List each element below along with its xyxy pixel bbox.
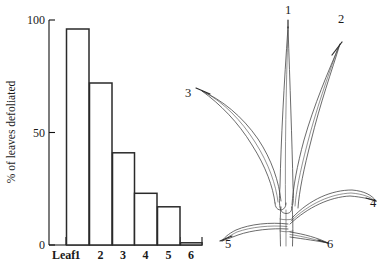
plant-label-leaf-1: 1 [285,3,291,17]
x-label-leaf-4: 4 [143,248,149,262]
plant-leaf-4-edge-lower [290,196,376,224]
x-label-leaf-3: 3 [120,248,126,262]
bar-leaf-4 [135,193,158,245]
y-tick-label-50: 50 [33,126,45,140]
plant-leaf-4-edge-upper [292,190,376,218]
plant-diagram: 1 2 3 4 5 6 [180,0,385,267]
bar-leaf-1 [67,29,90,245]
plant-label-leaf-6: 6 [327,237,333,251]
plant-stem-node-2 [280,231,293,232]
plant-leaf-3-edge-upper [202,91,281,201]
plant-label-leaf-3: 3 [185,86,191,100]
y-tick-label-100: 100 [27,13,45,27]
x-label-leaf-2: 2 [98,248,104,262]
y-axis-title: % of leaves defoliated [5,81,17,184]
plant-label-leaf-4: 4 [370,196,377,210]
plant-leaf-3-midrib [206,93,278,202]
figure-panel: 100 50 0 % of leaves defoliated Leaf 1 2… [0,0,385,267]
bar-leaf-2 [90,83,113,245]
plant-leaf-1-edge-left [279,27,288,207]
bar-leaf-3 [113,153,135,245]
plant-label-leaf-2: 2 [338,12,344,26]
plant-leaf-2-edge-upper [292,44,340,205]
leader-line-leaf-3 [196,88,210,94]
plant-leaf-3-edge-lower [202,91,275,203]
plant-leaf-2-edge-lower [298,44,340,208]
plant-leaf-4-midrib [291,193,375,221]
bar-leaf-5 [158,207,181,245]
plant-stem-right [292,207,293,246]
plant-label-leaf-5: 5 [225,237,231,251]
plant-leaf-1-edge-right [288,27,293,207]
x-axis-prefix-label: Leaf [52,248,76,262]
plant-leaf-5-midrib [223,226,287,241]
y-tick-label-0: 0 [39,238,45,252]
plant-stem-node-1 [280,219,293,220]
x-label-leaf-5: 5 [166,248,172,262]
plant-stem-left [280,207,281,246]
bar-chart: 100 50 0 % of leaves defoliated Leaf 1 2… [0,0,205,267]
x-label-leaf-1: 1 [75,248,81,262]
